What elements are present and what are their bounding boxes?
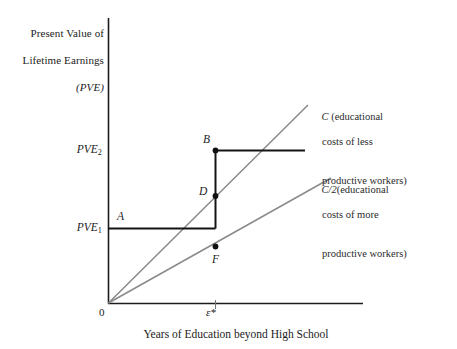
point-a-label: A xyxy=(117,209,124,223)
y-tick-pve2-text: PVE xyxy=(77,143,98,155)
y-tick-pve1-subscript: 1 xyxy=(98,226,102,235)
point-d-marker xyxy=(213,193,219,199)
y-axis-title-line3: (PVE) xyxy=(76,81,104,93)
curve-c-half-line xyxy=(109,178,332,303)
x-tick-label-epsilon-star: ε* xyxy=(206,306,216,319)
y-axis-title-line1: Present Value of xyxy=(31,27,105,39)
point-d-label: D xyxy=(199,184,207,198)
curve-c-line1: (educational xyxy=(329,111,384,122)
curve-c-half-line2: costs of more xyxy=(311,209,453,222)
curve-c-name: C xyxy=(322,111,329,122)
curve-c-line2: costs of less xyxy=(311,136,451,149)
point-f-label: F xyxy=(212,252,219,266)
y-axis-title: Present Value of Lifetime Earnings (PVE) xyxy=(8,14,104,108)
x-axis-title: Years of Education beyond High School xyxy=(108,327,364,341)
point-b-label: B xyxy=(203,132,210,146)
curve-c-half-annotation: C/2(educational costs of more productive… xyxy=(311,171,453,286)
origin-label: 0 xyxy=(99,306,105,319)
y-tick-pve1-text: PVE xyxy=(77,221,98,233)
y-tick-label-pve1: PVE1 xyxy=(34,220,102,234)
economics-signaling-diagram: Present Value of Lifetime Earnings (PVE)… xyxy=(0,0,457,349)
curve-c-half-line1: (educational xyxy=(337,184,389,195)
y-tick-pve2-subscript: 2 xyxy=(98,148,102,157)
point-b-marker xyxy=(213,148,219,154)
curve-c-half-line3: productive workers) xyxy=(311,248,453,261)
y-axis-title-line2: Lifetime Earnings xyxy=(23,54,104,66)
curve-c-half-name: C/2 xyxy=(322,184,337,195)
point-f-marker xyxy=(213,244,219,250)
y-tick-label-pve2: PVE2 xyxy=(34,142,102,156)
